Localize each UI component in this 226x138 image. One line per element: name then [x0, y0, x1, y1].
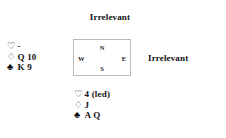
- heart-suit-icon: ♡: [7, 41, 16, 52]
- south-hand: ♡ 4 (led) ♢ J ♣ A Q: [74, 89, 110, 121]
- south-hearts-row: ♡ 4 (led): [74, 89, 110, 100]
- heart-suit-icon: ♡: [74, 89, 83, 100]
- west-clubs-cards: K 9: [18, 62, 32, 73]
- compass-west-label: W: [78, 55, 85, 62]
- diamond-suit-icon: ♢: [74, 100, 83, 111]
- north-hand-label: Irrelevant: [60, 12, 160, 22]
- compass-east-label: E: [122, 55, 126, 62]
- compass-north-label: N: [74, 44, 130, 51]
- club-suit-icon: ♣: [7, 62, 16, 73]
- east-hand-label: Irrelevant: [148, 53, 188, 63]
- club-suit-icon: ♣: [74, 110, 83, 121]
- west-clubs-row: ♣ K 9: [7, 62, 37, 73]
- west-hearts-cards: -: [18, 41, 21, 52]
- west-diamonds-cards: Q 10: [18, 52, 37, 63]
- west-hand: ♡ - ♢ Q 10 ♣ K 9: [7, 41, 37, 73]
- compass-south-label: S: [74, 65, 130, 72]
- south-clubs-cards: A Q: [85, 110, 101, 121]
- diamond-suit-icon: ♢: [7, 52, 16, 63]
- bridge-hand-diagram: Irrelevant ♡ - ♢ Q 10 ♣ K 9 N W E S Irre…: [0, 0, 226, 138]
- west-diamonds-row: ♢ Q 10: [7, 52, 37, 63]
- south-diamonds-row: ♢ J: [74, 100, 110, 111]
- west-hearts-row: ♡ -: [7, 41, 37, 52]
- south-hearts-cards: 4 (led): [85, 89, 111, 100]
- south-clubs-row: ♣ A Q: [74, 110, 110, 121]
- compass-box: N W E S: [73, 39, 131, 76]
- south-diamonds-cards: J: [85, 100, 90, 111]
